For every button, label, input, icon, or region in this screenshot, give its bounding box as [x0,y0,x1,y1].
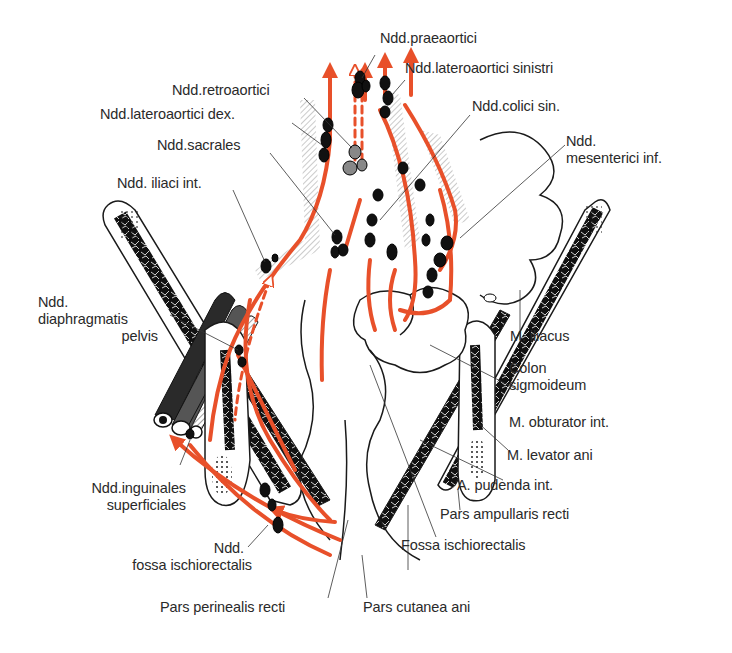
label-line: Ndd. [92,540,252,557]
label-line: Colon [509,360,586,377]
label-ndd-praeaortici: Ndd.praeaortici [380,30,477,47]
label-ndd-diaphragmatis-pelvis: Ndd. diaphragmatis pelvis [38,294,158,345]
label-ndd-lateroaortici-dex: Ndd.lateroaortici dex. [100,106,235,123]
anatomical-figure: Ndd.praeaortici Ndd.lateroaortici sinist… [0,0,732,653]
label-m-levator-ani: M. levator ani [507,447,593,464]
label-a-pudenda-int: A. pudenda int. [457,477,553,494]
label-line: diaphragmatis [38,311,158,328]
label-pars-ampullaris-recti: Pars ampullaris recti [440,506,569,523]
label-line: mesenterici inf. [566,150,662,167]
label-fossa-ischiorectalis: Fossa ischiorectalis [401,537,526,554]
label-line: Ndd. [38,294,158,311]
label-ndd-inguinales-superficiales: Ndd.inguinales superficiales [56,480,186,514]
label-line: Ndd.inguinales [56,480,186,497]
label-line: pelvis [38,328,158,345]
label-pars-perinealis-recti: Pars perinealis recti [160,599,285,616]
label-ndd-mesenterici-inf: Ndd. mesenterici inf. [566,133,662,167]
label-ndd-sacrales: Ndd.sacrales [157,137,240,154]
label-ndd-fossa-ischiorectalis: Ndd. fossa ischiorectalis [92,540,252,574]
label-pars-cutanea-ani: Pars cutanea ani [363,599,470,616]
label-line: fossa ischiorectalis [92,557,252,574]
label-m-iliacus: M. iliacus [510,328,569,345]
label-ndd-lateroaortici-sinistri: Ndd.lateroaortici sinistri [405,60,553,77]
label-m-obturator-int: M. obturator int. [509,414,609,431]
label-line: Ndd. [566,133,662,150]
label-ndd-colici-sin: Ndd.colici sin. [472,98,560,115]
label-colon-sigmoideum: Colon sigmoideum [509,360,586,394]
label-line: superficiales [56,497,186,514]
label-ndd-iliaci-int: Ndd. iliaci int. [117,175,202,192]
label-ndd-retroaortici: Ndd.retroaortici [172,82,270,99]
label-line: sigmoideum [509,377,586,394]
